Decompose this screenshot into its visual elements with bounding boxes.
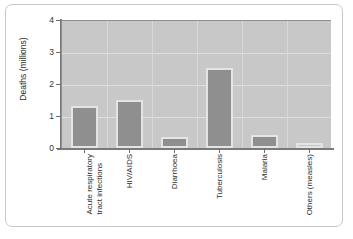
x-tick-mark xyxy=(264,149,265,153)
x-axis-line xyxy=(57,148,334,150)
bar xyxy=(116,100,143,148)
x-tick-mark xyxy=(219,149,220,153)
plot-area xyxy=(61,20,331,148)
x-tick-mark xyxy=(84,149,85,153)
x-tick-mark xyxy=(309,149,310,153)
bars-layer xyxy=(62,21,331,148)
bar xyxy=(296,143,323,148)
bar xyxy=(251,135,278,148)
x-tick-mark xyxy=(174,149,175,153)
y-tick-label: 3 xyxy=(30,48,54,57)
chart-figure: Deaths (millions) 01234 Acute respirator… xyxy=(0,0,353,239)
x-axis-label: Diarrhoea xyxy=(170,154,180,189)
x-tick-mark xyxy=(129,149,130,153)
x-axis-label: Acute respiratorytract infections xyxy=(85,154,104,214)
bar xyxy=(71,106,98,148)
y-tick-label: 0 xyxy=(30,144,54,153)
y-tick-label: 1 xyxy=(30,112,54,121)
x-axis-label: Malaria xyxy=(260,154,270,180)
x-axis-label: Tuberculosis xyxy=(215,154,225,199)
y-axis-title: Deaths (millions) xyxy=(18,15,28,123)
y-tick-label: 4 xyxy=(30,16,54,25)
x-axis-label: Others (measles) xyxy=(305,154,315,215)
bar xyxy=(161,137,188,148)
bar xyxy=(206,68,233,148)
y-tick-mark xyxy=(56,148,61,149)
y-tick-label: 2 xyxy=(30,80,54,89)
x-axis-label: HIV/AIDS xyxy=(125,154,135,188)
